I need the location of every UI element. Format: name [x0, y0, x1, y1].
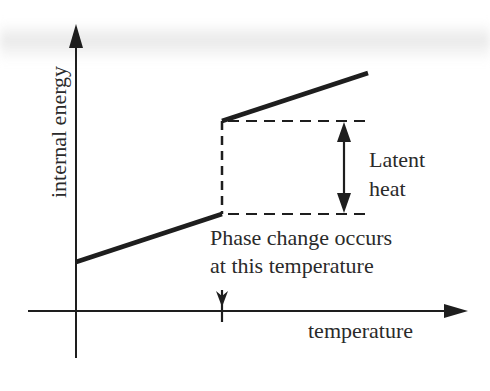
latent-heat-label-line1: Latent	[369, 147, 425, 172]
phase-change-pointer-arrow-icon	[216, 290, 228, 322]
phase-change-diagram: internal energy temperature Latent heat …	[0, 0, 490, 391]
segment-above-phase-change	[222, 73, 368, 121]
diagram-canvas: internal energy temperature Latent heat …	[0, 0, 490, 391]
x-axis	[28, 304, 468, 318]
segment-below-phase-change	[76, 214, 222, 262]
x-axis-label: temperature	[308, 318, 413, 343]
y-axis	[69, 24, 83, 358]
phase-change-label-line2: at this temperature	[210, 253, 374, 278]
phase-change-label-line1: Phase change occurs	[210, 225, 392, 250]
y-axis-arrow-icon	[69, 24, 83, 48]
y-axis-label: internal energy	[46, 66, 71, 198]
latent-heat-label-line2: heat	[369, 176, 406, 201]
x-axis-arrow-icon	[444, 304, 468, 318]
latent-heat-double-arrow-icon	[337, 122, 351, 213]
